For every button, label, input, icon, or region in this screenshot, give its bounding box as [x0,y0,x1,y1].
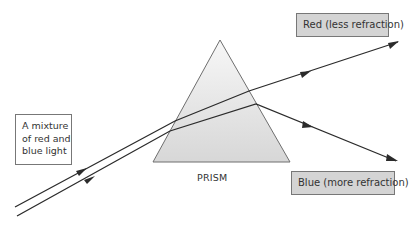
incoming-label-line: A mixture [22,120,71,133]
blue-light-label: Blue (more refraction) [291,171,395,195]
incoming-label-line: blue light [22,145,71,158]
prism-triangle [153,40,290,162]
blue-ray-arrow-icon [302,121,313,128]
prism-label: PRISM [197,172,227,183]
incoming-light-label: A mixture of red and blue light [15,114,72,165]
red-ray-arrow-icon [300,71,311,78]
red-light-label: Red (less refraction) [296,13,389,37]
red-light-label-text: Red (less refraction) [303,19,404,30]
blue-light-label-text: Blue (more refraction) [298,177,409,188]
blue-ray-arrowhead-icon [386,154,398,161]
red-ray-arrow-icon [76,168,87,176]
incoming-label-line: of red and [22,133,71,146]
red-ray-arrowhead-icon [388,41,399,49]
